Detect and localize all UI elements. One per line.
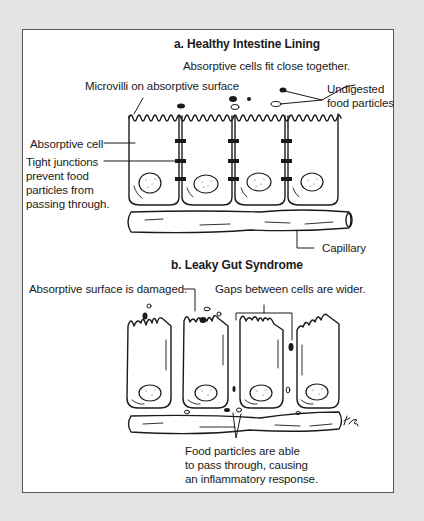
label-microvilli: Microvilli on absorptive surface bbox=[85, 79, 239, 93]
label-tight-junctions-3: particles from bbox=[26, 183, 94, 197]
healthy-cells bbox=[128, 88, 352, 233]
label-tight-junctions-4: passing through. bbox=[26, 197, 109, 211]
capillary-top bbox=[128, 210, 351, 233]
label-food-particles-3: an inflammatory response. bbox=[185, 472, 318, 486]
panel-a-caption: Absorptive cells fit close together. bbox=[183, 59, 350, 73]
artist-signature bbox=[344, 416, 358, 426]
label-food-particles-2: to pass through, causing bbox=[185, 458, 308, 472]
label-tight-junctions-1: Tight junctions bbox=[26, 155, 98, 169]
label-tight-junctions-2: prevent food bbox=[26, 169, 89, 183]
tight-junctions bbox=[175, 139, 292, 181]
damaged-cells bbox=[127, 304, 358, 434]
label-absorptive-cell: Absorptive cell bbox=[30, 137, 103, 151]
label-capillary: Capillary bbox=[322, 241, 366, 255]
label-surface-damaged: Absorptive surface is damaged. bbox=[29, 282, 187, 296]
nuclei bbox=[139, 173, 323, 193]
label-undigested-1: Undigested bbox=[327, 82, 384, 96]
label-gaps-wider: Gaps between cells are wider. bbox=[215, 282, 366, 296]
panel-b-title: b. Leaky Gut Syndrome bbox=[171, 258, 303, 272]
panel-a-title: a. Healthy Intestine Lining bbox=[174, 37, 320, 51]
label-food-particles-1: Food particles are able bbox=[185, 444, 300, 458]
label-undigested-2: food particles bbox=[327, 96, 394, 110]
